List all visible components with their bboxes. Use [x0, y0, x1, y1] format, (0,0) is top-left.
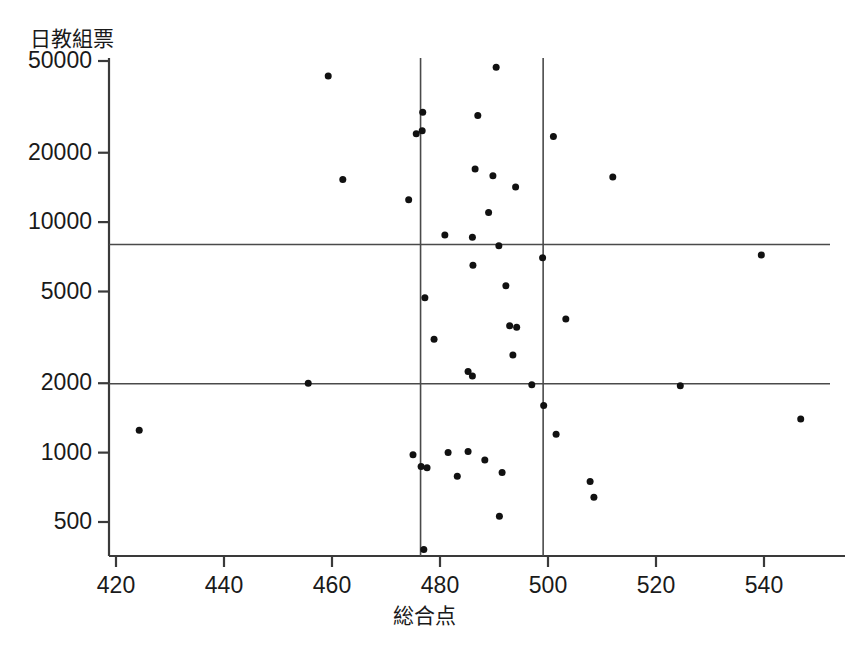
- data-point: [609, 173, 616, 180]
- data-point: [485, 209, 492, 216]
- data-point: [474, 112, 481, 119]
- y-axis-title: 日教組票: [30, 28, 114, 49]
- data-point: [562, 315, 569, 322]
- data-point: [418, 463, 425, 470]
- data-point: [553, 431, 560, 438]
- data-point: [550, 133, 557, 140]
- y-tick-label: 20000: [0, 141, 92, 164]
- data-point: [454, 473, 461, 480]
- data-point: [590, 494, 597, 501]
- data-point: [305, 380, 312, 387]
- data-point: [420, 546, 427, 553]
- data-point: [509, 352, 516, 359]
- tick-marks: [98, 61, 764, 567]
- data-point: [506, 322, 513, 329]
- data-point: [339, 176, 346, 183]
- data-point: [496, 513, 503, 520]
- data-point: [493, 64, 500, 71]
- plot-canvas: [0, 0, 849, 649]
- data-point: [677, 382, 684, 389]
- data-points: [136, 64, 805, 553]
- reference-lines: [109, 58, 830, 556]
- data-point: [469, 262, 476, 269]
- data-point: [410, 451, 417, 458]
- data-point: [405, 196, 412, 203]
- data-point: [441, 231, 448, 238]
- data-point: [419, 127, 426, 134]
- x-tick-label: 540: [719, 574, 809, 597]
- x-tick-label: 520: [611, 574, 701, 597]
- y-tick-label: 1000: [0, 441, 92, 464]
- y-tick-label: 2000: [0, 371, 92, 394]
- x-tick-label: 480: [395, 574, 485, 597]
- data-point: [502, 282, 509, 289]
- y-tick-label: 5000: [0, 280, 92, 303]
- y-tick-label: 50000: [0, 49, 92, 72]
- data-point: [758, 252, 765, 259]
- x-tick-label: 440: [179, 574, 269, 597]
- y-tick-label: 10000: [0, 210, 92, 233]
- data-point: [419, 109, 426, 116]
- data-point: [499, 469, 506, 476]
- data-point: [445, 449, 452, 456]
- data-point: [528, 381, 535, 388]
- data-point: [424, 464, 431, 471]
- x-tick-label: 500: [503, 574, 593, 597]
- data-point: [797, 415, 804, 422]
- data-point: [512, 184, 519, 191]
- data-point: [325, 73, 332, 80]
- data-point: [469, 372, 476, 379]
- data-point: [539, 254, 546, 261]
- data-point: [481, 456, 488, 463]
- data-point: [472, 165, 479, 172]
- data-point: [413, 130, 420, 137]
- x-axis-title: 総合点: [0, 605, 849, 626]
- scatter-chart: 500100020005000100002000050000 420440460…: [0, 0, 849, 649]
- data-point: [431, 336, 438, 343]
- data-point: [421, 294, 428, 301]
- axis-lines: [109, 58, 845, 556]
- y-tick-label: 500: [0, 510, 92, 533]
- x-tick-label: 460: [287, 574, 377, 597]
- x-tick-label: 420: [71, 574, 161, 597]
- data-point: [136, 427, 143, 434]
- data-point: [587, 478, 594, 485]
- data-point: [489, 172, 496, 179]
- data-point: [465, 448, 472, 455]
- data-point: [540, 402, 547, 409]
- data-point: [513, 324, 520, 331]
- data-point: [469, 234, 476, 241]
- data-point: [495, 242, 502, 249]
